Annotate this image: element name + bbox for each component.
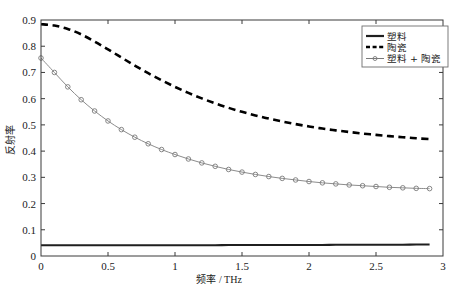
x-axis-title-unit: / THz [219,274,242,285]
y-tick-label: 0.3 [22,171,36,183]
legend-label-plastic: 塑料 [387,31,407,42]
x-axis-tick-labels: 00.511.522.53 [38,260,446,272]
x-tick-label: 0 [38,260,44,272]
x-axis-title-cn: 频率 [196,273,216,285]
x-tick-label: 2 [306,260,312,272]
x-tick-label: 1 [172,260,178,272]
x-tick-label: 1.5 [235,260,249,272]
y-axis-tick-labels: 00.10.20.30.40.50.60.70.80.9 [22,14,36,262]
x-tick-label: 2.5 [369,260,383,272]
y-tick-label: 0.6 [22,93,36,105]
legend-label-plastic-ceramic: 塑料 + 陶瓷 [387,53,441,64]
legend-label-ceramic: 陶瓷 [387,42,407,53]
y-tick-label: 0.2 [22,198,36,210]
y-tick-label: 0.4 [22,145,36,157]
chart-figure: 00.511.522.53 00.10.20.30.40.50.60.70.80… [0,0,458,297]
series-0 [41,244,430,245]
y-tick-label: 0 [31,250,37,262]
y-tick-label: 0.1 [22,224,36,236]
y-tick-label: 0.9 [22,14,36,26]
series-line [41,244,430,245]
y-axis-title: 反射率 [4,125,16,155]
x-tick-label: 0.5 [101,260,115,272]
y-tick-label: 0.8 [22,40,36,52]
y-tick-label: 0.5 [22,119,36,131]
reflectivity-line-chart: 00.511.522.53 00.10.20.30.40.50.60.70.80… [0,0,458,297]
chart-legend[interactable]: 塑料 陶瓷 塑料 + 陶瓷 [362,26,448,67]
y-tick-label: 0.7 [22,66,36,78]
x-tick-label: 3 [440,260,446,272]
